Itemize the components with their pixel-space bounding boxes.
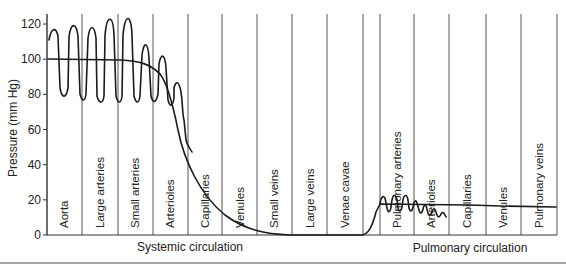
y-tick-label: 80 [28,87,42,101]
segment-label: Arterioles [425,179,437,228]
circulation-group-labels: Systemic circulationPulmonary circulatio… [137,240,527,255]
y-axis-title: Pressure (mm Hg) [6,79,20,177]
segment-label: Large veins [304,168,316,228]
y-tick-label: 120 [21,17,41,31]
segment-label: Pulmonary veins [533,143,545,228]
segment-labels: AortaLarge arteriesSmall arteriesArterio… [58,131,545,228]
y-tick-label: 20 [28,193,42,207]
circulation-label: Pulmonary circulation [413,241,528,255]
segment-label: Capillaries [199,174,211,228]
pulsatile-systemic-curve [49,18,192,152]
segment-label: Pulmonary arteries [391,131,403,228]
y-tick-label: 40 [28,158,42,172]
y-tick-label: 0 [34,228,41,242]
segment-label: Small veins [268,169,280,228]
mean-pressure-curve [48,59,556,235]
segment-label: Capillaries [461,174,473,228]
segment-label: Aorta [58,200,70,228]
segment-label: Arterioles [164,179,176,228]
segment-label: Venules [234,187,246,228]
segment-label: Venules [497,187,509,228]
segment-label: Small arteries [129,157,141,228]
circulation-label: Systemic circulation [137,240,243,254]
segment-label: Large arteries [94,157,106,228]
y-tick-label: 100 [21,52,41,66]
y-axis-ticks: 020406080100120 [21,17,47,242]
segment-label: Venae cavae [339,161,351,228]
pressure-chart: 020406080100120 AortaLarge arteriesSmall… [0,0,566,271]
y-tick-label: 60 [28,123,42,137]
